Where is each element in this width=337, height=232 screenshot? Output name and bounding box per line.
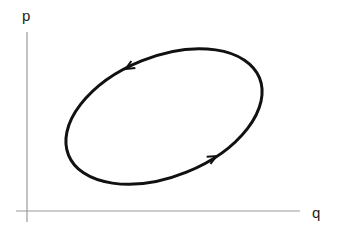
phase-space-diagram: p q [0, 0, 337, 232]
diagram-canvas [0, 0, 337, 232]
p-axis-label: p [22, 8, 30, 23]
q-axis-label: q [312, 205, 320, 220]
orbit-ellipse [46, 22, 282, 210]
